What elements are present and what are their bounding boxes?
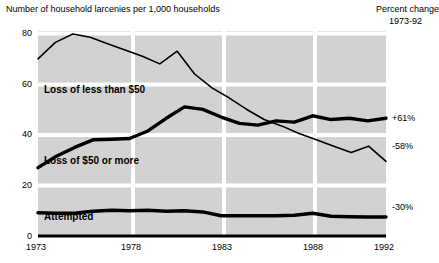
y-tick-40: 40 xyxy=(8,130,32,139)
y-tick-80: 80 xyxy=(8,29,32,38)
percent-change-less-than-50: -58% xyxy=(392,142,413,151)
y-tick-60: 60 xyxy=(8,80,32,89)
x-tick-1973: 1973 xyxy=(26,243,46,252)
series-label-attempted: Attempted xyxy=(44,211,93,222)
y-tick-20: 20 xyxy=(8,181,32,190)
percent-change-fifty-or-more: +61% xyxy=(392,114,415,123)
x-tick-1978: 1978 xyxy=(121,243,141,252)
x-tick-1983: 1983 xyxy=(212,243,232,252)
series-label-fifty-or-more: Loss of $50 or more xyxy=(44,155,139,166)
percent-change-attempted: -30% xyxy=(392,203,413,212)
x-tick-1988: 1988 xyxy=(303,243,323,252)
y-tick-0: 0 xyxy=(8,232,32,241)
series-label-less-than-50: Loss of less than $50 xyxy=(44,84,145,95)
x-tick-1992: 1992 xyxy=(374,243,394,252)
